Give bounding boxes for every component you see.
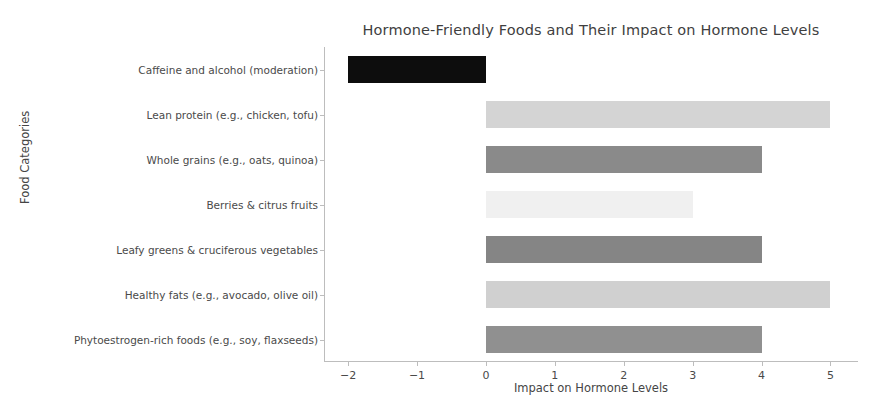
y-axis-tick-label: Berries & citrus fruits [206,199,318,211]
x-axis-tick-mark [830,362,831,366]
y-axis-tick-mark [320,70,324,71]
x-axis-tick-label: 3 [689,369,696,382]
y-axis-tick-label: Lean protein (e.g., chicken, tofu) [147,109,318,121]
x-axis-tick-mark [693,362,694,366]
chart-figure: Hormone-Friendly Foods and Their Impact … [0,0,895,418]
bar [486,101,831,128]
bar [486,191,693,218]
bar [348,56,486,83]
x-axis-title: Impact on Hormone Levels [324,381,858,395]
x-axis-tick-mark [555,362,556,366]
bar [486,281,831,308]
y-axis-tick-label: Whole grains (e.g., oats, quinoa) [146,154,318,166]
x-axis-tick-label: −1 [409,369,425,382]
x-axis-tick-label: 4 [758,369,765,382]
x-axis-tick-mark [417,362,418,366]
y-axis-tick-mark [320,160,324,161]
x-axis-tick-label: 0 [482,369,489,382]
bar [486,146,762,173]
x-axis-tick-label: 1 [551,369,558,382]
y-axis-tick-mark [320,250,324,251]
x-axis-tick-label: 2 [620,369,627,382]
bar [486,236,762,263]
x-axis-spine [324,361,858,362]
x-axis-tick-label: −2 [340,369,356,382]
y-axis-tick-mark [320,115,324,116]
y-axis-tick-mark [320,295,324,296]
x-axis-tick-mark [348,362,349,366]
y-axis-tick-label: Leafy greens & cruciferous vegetables [116,244,318,256]
y-axis-tick-mark [320,205,324,206]
y-axis-tick-label: Phytoestrogen-rich foods (e.g., soy, fla… [74,334,318,346]
x-axis-tick-mark [762,362,763,366]
y-axis-tick-label: Caffeine and alcohol (moderation) [138,64,318,76]
x-axis-tick-mark [486,362,487,366]
x-axis-tick-mark [624,362,625,366]
y-axis-tick-mark [320,340,324,341]
chart-title: Hormone-Friendly Foods and Their Impact … [324,22,858,38]
y-axis-tick-labels: Caffeine and alcohol (moderation)Lean pr… [0,47,318,362]
x-axis-tick-label: 5 [827,369,834,382]
y-axis-spine [324,47,325,362]
y-axis-tick-label: Healthy fats (e.g., avocado, olive oil) [125,289,318,301]
plot-area: −2−1012345 [324,47,858,362]
bar [486,326,762,353]
